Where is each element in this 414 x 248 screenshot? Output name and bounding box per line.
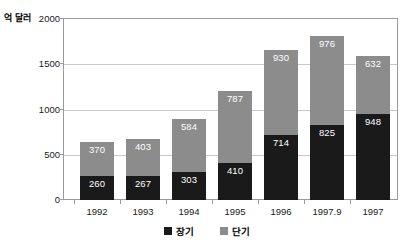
bar-segment-short-1997-9[interactable]: 976 <box>310 36 344 125</box>
bar-segment-long-1994[interactable]: 303 <box>172 172 206 200</box>
bar-segment-short-1993[interactable]: 403 <box>126 139 160 176</box>
bar-value-long-1995: 410 <box>218 165 252 176</box>
legend-swatch-short-term-icon <box>220 227 228 235</box>
bar-value-short-1997: 632 <box>356 58 390 69</box>
x-axis-tick-mark <box>166 200 167 204</box>
y-axis-tick-label-1000: 1000 <box>8 104 60 115</box>
y-axis-tick-label-0: 0 <box>8 194 60 205</box>
bars-layer: 370 260 403 267 584 303 787 <box>63 18 398 200</box>
bar-value-short-1992: 370 <box>80 144 114 155</box>
bar-value-short-1994: 584 <box>172 121 206 132</box>
y-axis-tick-group: 2000 1500 1000 500 0 <box>6 0 60 248</box>
x-axis-tick-mark <box>212 200 213 204</box>
y-axis-tick-label-1500: 1500 <box>8 58 60 69</box>
bar-segment-short-1992[interactable]: 370 <box>80 142 114 176</box>
bar-segment-short-1996[interactable]: 930 <box>264 50 298 135</box>
bar-value-short-1995: 787 <box>218 93 252 104</box>
bar-value-long-1993: 267 <box>126 178 160 189</box>
bar-segment-short-1994[interactable]: 584 <box>172 119 206 172</box>
legend-label-short-term: 단기 <box>232 224 250 238</box>
legend-label-long-term: 장기 <box>176 224 194 238</box>
bar-value-long-1997-9: 825 <box>310 127 344 138</box>
bar-segment-long-1997-9[interactable]: 825 <box>310 125 344 200</box>
x-axis-tick-mark <box>120 200 121 204</box>
bar-value-long-1992: 260 <box>80 178 114 189</box>
stacked-bar-chart: 억 달러 2000 1500 1000 500 0 370 260 403 <box>0 0 414 248</box>
bar-value-long-1997: 948 <box>356 116 390 127</box>
y-axis-tick-label-500: 500 <box>8 149 60 160</box>
x-axis-tick-mark <box>350 200 351 204</box>
bar-segment-short-1997[interactable]: 632 <box>356 56 390 114</box>
bar-segment-long-1997[interactable]: 948 <box>356 114 390 200</box>
bar-segment-long-1993[interactable]: 267 <box>126 176 160 200</box>
bar-value-short-1993: 403 <box>126 141 160 152</box>
chart-legend: 장기 단기 <box>0 224 414 238</box>
bar-value-short-1997-9: 976 <box>310 38 344 49</box>
legend-item-long-term[interactable]: 장기 <box>164 224 194 238</box>
bar-segment-long-1996[interactable]: 714 <box>264 135 298 200</box>
x-axis-tick-mark <box>304 200 305 204</box>
bar-segment-long-1992[interactable]: 260 <box>80 176 114 200</box>
bar-value-long-1996: 714 <box>264 137 298 148</box>
x-axis-tick-mark <box>74 200 75 204</box>
bar-segment-short-1995[interactable]: 787 <box>218 91 252 163</box>
x-axis-tick-mark <box>258 200 259 204</box>
bar-value-long-1994: 303 <box>172 174 206 185</box>
legend-item-short-term[interactable]: 단기 <box>220 224 250 238</box>
x-axis-tick-label-1997: 1997 <box>343 206 403 217</box>
legend-swatch-long-term-icon <box>164 227 172 235</box>
y-axis-tick-label-2000: 2000 <box>8 13 60 24</box>
bar-value-short-1996: 930 <box>264 52 298 63</box>
bar-segment-long-1995[interactable]: 410 <box>218 163 252 200</box>
